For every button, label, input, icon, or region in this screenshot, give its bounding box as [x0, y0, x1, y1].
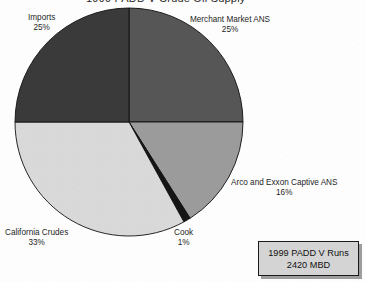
- slice-label-name: California Crudes: [5, 228, 68, 237]
- slice-label-california-crudes: California Crudes 33%: [5, 228, 68, 249]
- slice-label-percent: 25%: [190, 25, 270, 35]
- slice-label-merchant-market-ans: Merchant Market ANS 25%: [190, 15, 270, 36]
- slice-label-name: Merchant Market ANS: [190, 15, 270, 24]
- annotation-box: 1999 PADD V Runs 2420 MBD: [258, 241, 359, 276]
- slice-label-cook: Cook 1%: [174, 228, 193, 249]
- slice-label-arco-exxon-captive-ans: Arco and Exxon Captive ANS 16%: [231, 178, 338, 199]
- chart-page: 1999 PADD V Crude Oil Supply Merchant Ma…: [0, 0, 365, 282]
- slice-label-imports: Imports 25%: [28, 13, 55, 34]
- slice-label-name: Cook: [174, 228, 193, 237]
- slice-label-percent: 25%: [28, 23, 55, 33]
- slice-label-name: Imports: [28, 13, 55, 22]
- slice-label-name: Arco and Exxon Captive ANS: [231, 178, 338, 187]
- annotation-line-2: 2420 MBD: [287, 259, 330, 271]
- slice-label-percent: 33%: [5, 238, 68, 248]
- annotation-line-1: 1999 PADD V Runs: [268, 247, 349, 259]
- slice-label-percent: 16%: [231, 188, 338, 198]
- slice-label-percent: 1%: [174, 238, 193, 248]
